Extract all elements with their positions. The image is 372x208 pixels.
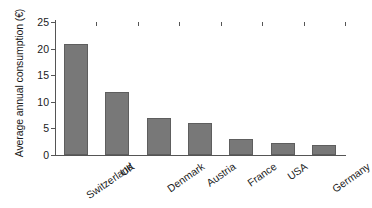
x-tick-mark: [345, 22, 346, 26]
plot-area: 0510152025: [55, 22, 345, 155]
y-axis-title: Average annual consumption (€): [12, 8, 26, 158]
y-tick-mark: [51, 49, 55, 50]
y-tick-mark: [51, 155, 55, 156]
x-tick-label: Austria: [204, 160, 238, 189]
bar: [64, 44, 88, 155]
bar: [188, 123, 212, 155]
x-tick-mark: [55, 22, 56, 26]
bar: [147, 118, 171, 155]
x-tick-mark: [304, 22, 305, 26]
x-tick-label: France: [245, 160, 279, 189]
x-tick-mark: [96, 22, 97, 26]
bar: [229, 139, 253, 155]
x-tick-mark: [138, 22, 139, 26]
x-tick-mark: [179, 22, 180, 26]
y-tick-mark: [51, 75, 55, 76]
y-tick-label: 20: [37, 43, 49, 54]
x-tick-mark: [262, 22, 263, 26]
bar: [105, 92, 129, 155]
y-tick-label: 0: [43, 150, 49, 161]
y-tick-mark: [51, 128, 55, 129]
x-tick-label: Germany: [330, 160, 372, 195]
x-tick-label: Denmark: [164, 160, 206, 194]
x-axis-line: [55, 155, 346, 156]
y-tick-label: 5: [43, 123, 49, 134]
y-tick-label: 10: [37, 97, 49, 108]
bar: [271, 143, 295, 155]
x-tick-label: USA: [285, 160, 310, 182]
y-tick-label: 25: [37, 17, 49, 28]
y-tick-label: 15: [37, 70, 49, 81]
y-tick-mark: [51, 102, 55, 103]
bar: [312, 145, 336, 155]
x-tick-mark: [221, 22, 222, 26]
